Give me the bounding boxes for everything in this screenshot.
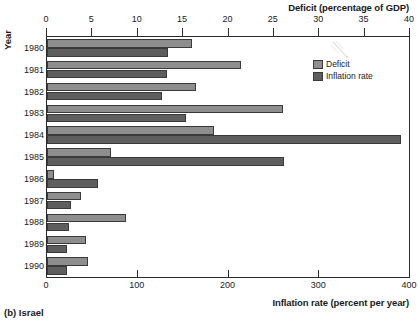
- year-label-1985: 1985: [24, 152, 44, 162]
- year-label-1981: 1981: [24, 65, 44, 75]
- bar-inflation-1990: [47, 266, 67, 274]
- bar-deficit-1981: [47, 61, 241, 69]
- bar-deficit-1984: [47, 126, 214, 134]
- bar-inflation-1982: [47, 92, 162, 100]
- legend-label: Deficit: [326, 59, 350, 70]
- bottom-tick-label-400: 400: [401, 280, 416, 290]
- top-tick-mark: [46, 28, 47, 36]
- bar-inflation-1985: [47, 157, 284, 165]
- bottom-tick-label-0: 0: [43, 280, 48, 290]
- top-tick-label-15: 15: [177, 14, 187, 24]
- bar-deficit-1986: [47, 170, 54, 178]
- bottom-tick-mark: [137, 270, 138, 278]
- top-tick-label-30: 30: [313, 14, 323, 24]
- top-tick-label-20: 20: [222, 14, 232, 24]
- top-tick-label-10: 10: [132, 14, 142, 24]
- deficit-swatch-icon: [313, 60, 323, 69]
- legend-item-deficit: Deficit: [313, 59, 373, 70]
- bar-inflation-1981: [47, 70, 167, 78]
- top-tick-mark: [182, 28, 183, 36]
- year-label-1987: 1987: [24, 196, 44, 206]
- top-tick-mark: [318, 28, 319, 36]
- bar-deficit-1988: [47, 214, 126, 222]
- top-tick-label-5: 5: [89, 14, 94, 24]
- year-label-1990: 1990: [24, 261, 44, 271]
- inflation-swatch-icon: [313, 72, 323, 81]
- top-tick-label-35: 35: [359, 14, 369, 24]
- bottom-axis-title: Inflation rate (percent per year): [272, 297, 409, 308]
- top-tick-label-40: 40: [404, 14, 414, 24]
- year-label-1989: 1989: [24, 239, 44, 249]
- bottom-tick-label-200: 200: [220, 280, 235, 290]
- bar-inflation-1987: [47, 201, 71, 209]
- legend-label: Inflation rate: [326, 71, 373, 82]
- figure-caption: (b) Israel: [4, 307, 44, 318]
- top-axis-title: Deficit (percentage of GDP): [288, 2, 409, 13]
- bar-inflation-1980: [47, 48, 168, 56]
- top-axis-line: [46, 36, 409, 37]
- bar-deficit-1983: [47, 105, 283, 113]
- legend-item-inflation-rate: Inflation rate: [313, 71, 373, 82]
- top-tick-mark: [91, 28, 92, 36]
- bar-inflation-1988: [47, 223, 69, 231]
- chart-legend: DeficitInflation rate: [313, 59, 373, 83]
- bar-inflation-1989: [47, 245, 67, 253]
- top-tick-label-0: 0: [43, 14, 48, 24]
- y-axis-title: Year: [2, 30, 13, 50]
- year-label-1986: 1986: [24, 174, 44, 184]
- top-tick-label-25: 25: [268, 14, 278, 24]
- right-axis-line: [409, 36, 410, 278]
- year-label-1984: 1984: [24, 130, 44, 140]
- top-tick-mark: [364, 28, 365, 36]
- year-label-1983: 1983: [24, 108, 44, 118]
- bottom-tick-label-100: 100: [129, 280, 144, 290]
- top-tick-mark: [137, 28, 138, 36]
- bar-inflation-1984: [47, 135, 401, 143]
- bar-deficit-1980: [47, 39, 192, 47]
- top-tick-mark: [228, 28, 229, 36]
- bar-inflation-1983: [47, 114, 186, 122]
- bar-deficit-1982: [47, 83, 196, 91]
- bottom-tick-mark: [228, 270, 229, 278]
- top-tick-mark: [273, 28, 274, 36]
- top-tick-mark: [409, 28, 410, 36]
- bottom-tick-mark: [409, 270, 410, 278]
- bar-deficit-1989: [47, 236, 86, 244]
- bar-deficit-1987: [47, 192, 81, 200]
- bar-chart: Deficit (percentage of GDP) Inflation ra…: [0, 0, 418, 324]
- bottom-tick-label-300: 300: [311, 280, 326, 290]
- bar-deficit-1985: [47, 148, 111, 156]
- year-label-1988: 1988: [24, 217, 44, 227]
- bar-inflation-1986: [47, 179, 98, 187]
- bottom-tick-mark: [318, 270, 319, 278]
- bar-deficit-1990: [47, 257, 88, 265]
- year-label-1982: 1982: [24, 87, 44, 97]
- year-label-1980: 1980: [24, 43, 44, 53]
